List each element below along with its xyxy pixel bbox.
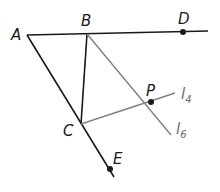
geometry-diagram: A B D C E P l4 l6 xyxy=(0,0,220,192)
label-l6: l6 xyxy=(176,120,187,140)
label-l4-sub: 4 xyxy=(185,94,191,105)
label-l4: l4 xyxy=(181,85,192,105)
line-ace xyxy=(27,35,114,177)
label-b: B xyxy=(81,12,91,30)
label-d: D xyxy=(178,10,190,28)
line-l6 xyxy=(87,34,171,135)
point-d-dot xyxy=(180,29,186,35)
segment-bc xyxy=(81,34,87,124)
line-l4 xyxy=(81,93,175,124)
label-l6-sub: 6 xyxy=(180,129,186,140)
label-p: P xyxy=(146,82,156,100)
label-e: E xyxy=(113,150,123,168)
label-a: A xyxy=(10,26,21,44)
label-c: C xyxy=(63,122,74,140)
